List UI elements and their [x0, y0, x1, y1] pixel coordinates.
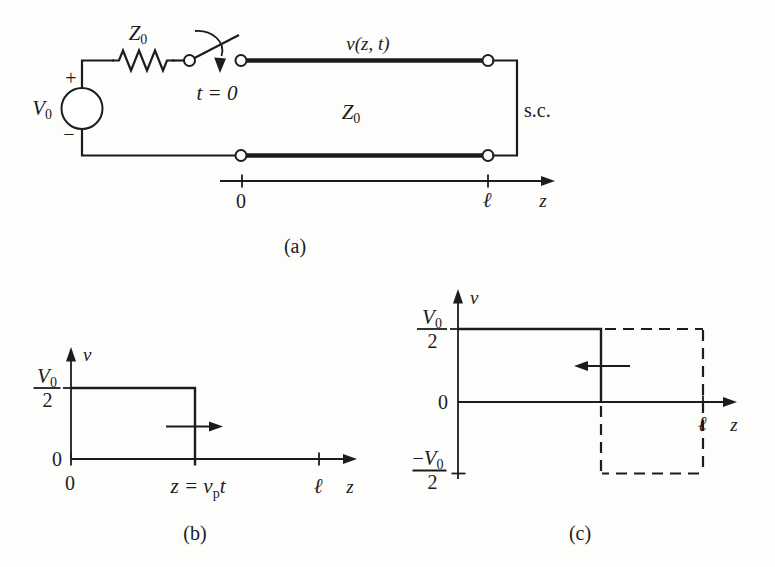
z-axis-a-label-0: 0 [236, 190, 246, 212]
caption-b: (b) [183, 522, 206, 545]
line-impedance-label: Z0 [342, 100, 361, 126]
source-label: V0 [32, 96, 52, 122]
textbook-figure: + − V0 Z0 t = 0 v(z, t) Z0 s.c. 0 ℓ z (a… [0, 0, 775, 567]
switch-label: t = 0 [196, 81, 238, 105]
wire-source-bottom [82, 129, 236, 156]
termination-label: s.c. [524, 99, 551, 121]
b-step-position-label: z = vpt [169, 474, 226, 501]
b-y-axis-label: v [83, 344, 92, 365]
b-y-zero-label: 0 [52, 448, 62, 470]
c-frac-top-denominator: 2 [428, 330, 438, 352]
b-propagation-arrowhead-icon [209, 422, 223, 432]
c-label-z: z [729, 414, 738, 435]
line-terminal-bottom-left [236, 150, 247, 161]
short-circuit-wire [494, 61, 518, 156]
resistor [113, 51, 173, 71]
line-terminal-top-right [483, 55, 494, 66]
c-y-axis-arrowhead-icon [453, 289, 463, 304]
z-axis-a-label-z: z [538, 190, 547, 211]
figure-svg: + − V0 Z0 t = 0 v(z, t) Z0 s.c. 0 ℓ z (a… [0, 0, 775, 567]
source-minus-sign: − [63, 123, 74, 145]
b-frac-denominator: 2 [43, 389, 53, 411]
wire-source-top [82, 61, 113, 89]
c-frac-bottom-denominator: 2 [428, 471, 438, 493]
switch-blade [195, 36, 239, 59]
c-y-zero-label: 0 [438, 391, 448, 413]
b-label-z: z [345, 476, 354, 497]
z-axis-a-arrowhead-icon [541, 176, 555, 186]
c-label-ell: ℓ [698, 412, 707, 436]
z-axis-a-label-ell: ℓ [483, 188, 492, 212]
b-frac-numerator: V0 [37, 364, 57, 390]
resistor-label: Z0 [129, 21, 148, 47]
caption-a: (a) [284, 235, 306, 258]
b-x-zero-label: 0 [65, 472, 75, 494]
c-x-axis-arrowhead-icon [723, 397, 737, 407]
b-label-ell: ℓ [314, 474, 323, 498]
caption-c: (c) [569, 522, 591, 545]
c-y-axis-label: v [470, 287, 479, 308]
circuit-panel-a: + − V0 Z0 t = 0 v(z, t) Z0 s.c. 0 ℓ z (a… [32, 21, 555, 258]
c-propagation-arrowhead-icon [574, 361, 588, 371]
c-frac-bottom-numerator: −V0 [412, 446, 443, 472]
c-frac-top-numerator: V0 [422, 305, 442, 331]
switch-contact-right [236, 55, 247, 66]
plot-panel-c: v V0 2 0 −V0 2 ℓ z (c) [412, 287, 738, 545]
source-plus-sign: + [65, 67, 76, 89]
line-voltage-label: v(z, t) [346, 33, 389, 55]
b-x-axis-arrowhead-icon [343, 454, 357, 464]
plot-panel-b: v V0 2 0 0 ℓ z z = vpt (b) [34, 344, 358, 545]
switch-closing-arc [195, 31, 222, 56]
line-terminal-bottom-right [483, 150, 494, 161]
switch-arrowhead-icon [214, 58, 226, 74]
b-y-axis-arrowhead-icon [66, 347, 76, 362]
switch-contact-left [184, 55, 195, 66]
